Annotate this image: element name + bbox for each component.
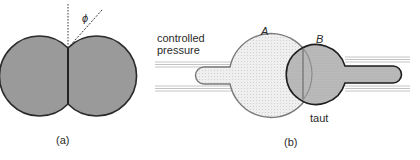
panel-a-doublet xyxy=(0,4,137,116)
panel-a-caption: (a) xyxy=(56,134,69,146)
bubble-b-label: B xyxy=(316,33,323,45)
angle-phi-label: ϕ xyxy=(82,12,88,24)
bubble-b xyxy=(286,45,401,105)
pressure-label: pressure xyxy=(157,44,200,56)
bubble-a-label: A xyxy=(261,25,268,37)
taut-label: taut xyxy=(310,112,328,124)
controlled-label: controlled xyxy=(157,32,205,44)
panel-b-caption: (b) xyxy=(284,136,297,148)
